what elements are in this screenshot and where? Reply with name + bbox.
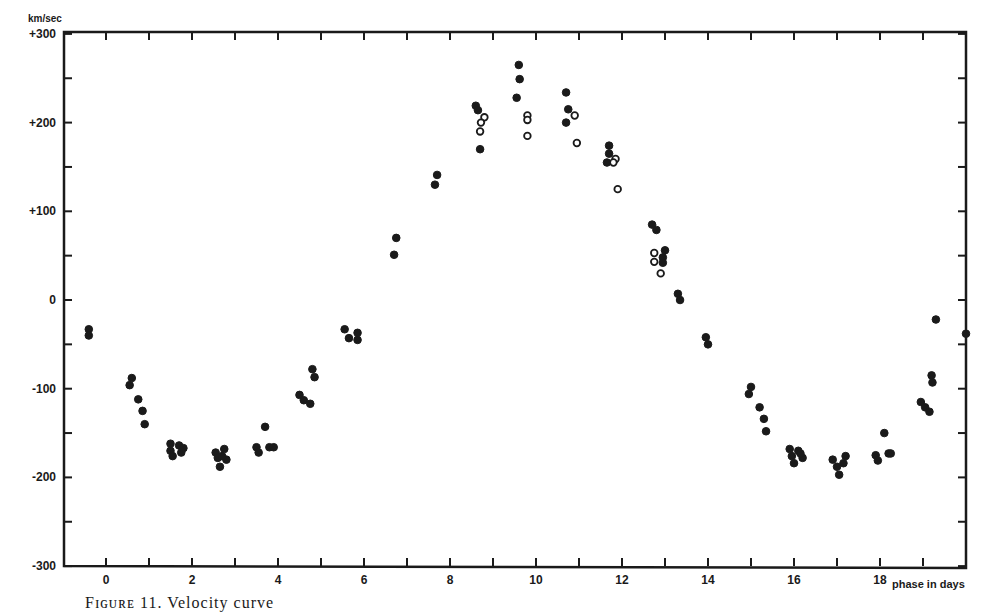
filled-data-point xyxy=(345,334,353,342)
x-tick-label: 8 xyxy=(447,573,454,587)
filled-data-point xyxy=(180,444,188,452)
y-tick-label: +300 xyxy=(29,27,56,41)
filled-data-point xyxy=(474,106,482,114)
filled-data-point xyxy=(745,390,753,398)
filled-data-point xyxy=(128,374,136,382)
open-data-point xyxy=(477,128,484,135)
filled-data-point xyxy=(756,404,764,412)
filled-data-point xyxy=(515,61,523,69)
filled-data-point xyxy=(311,373,319,381)
y-tick-label: -200 xyxy=(32,470,56,484)
filled-data-point xyxy=(513,94,521,102)
x-tick-label: 0 xyxy=(103,573,110,587)
filled-data-point xyxy=(653,226,661,234)
y-tick-label: +100 xyxy=(29,204,56,218)
filled-data-point xyxy=(562,89,570,97)
y-tick-label: -100 xyxy=(32,382,56,396)
filled-data-point xyxy=(392,234,400,242)
filled-data-point xyxy=(874,457,882,465)
filled-data-point xyxy=(169,452,177,460)
x-tick-label: 16 xyxy=(787,573,801,587)
y-axis-tick-labels: +300+200+1000-100-200-300 xyxy=(29,27,56,573)
filled-data-point xyxy=(790,459,798,467)
filled-data-point xyxy=(433,171,441,179)
x-axis-tick-labels: 024681012141618 xyxy=(103,573,887,587)
x-tick-label: 2 xyxy=(189,573,196,587)
y-tick-label: +200 xyxy=(29,116,56,130)
filled-data-point xyxy=(762,427,770,435)
filled-data-point xyxy=(702,333,710,341)
filled-data-point xyxy=(85,332,93,340)
filled-data-point xyxy=(929,379,937,387)
filled-data-point xyxy=(126,381,134,389)
filled-data-point xyxy=(306,400,314,408)
filled-data-point xyxy=(139,407,147,415)
open-data-point xyxy=(651,250,658,257)
x-tick-label: 10 xyxy=(529,573,543,587)
filled-data-point xyxy=(354,336,362,344)
filled-data-point xyxy=(167,440,175,448)
filled-data-point xyxy=(218,452,226,460)
filled-data-point xyxy=(605,150,613,158)
filled-data-point xyxy=(928,372,936,380)
filled-data-point xyxy=(829,456,837,464)
filled-data-point xyxy=(842,452,850,460)
filled-data-point xyxy=(390,251,398,259)
filled-data-point xyxy=(216,463,224,471)
y-tick-label: 0 xyxy=(49,293,56,307)
filled-data-point xyxy=(309,365,317,373)
filled-data-point xyxy=(887,450,895,458)
x-tick-label: 14 xyxy=(701,573,715,587)
y-tick-label: -300 xyxy=(32,559,56,573)
y-axis-unit-label: km/sec xyxy=(28,13,62,24)
x-tick-label: 12 xyxy=(615,573,629,587)
filled-data-point xyxy=(261,423,269,431)
plot-border xyxy=(64,32,966,568)
filled-data-point xyxy=(676,296,684,304)
open-data-point xyxy=(651,259,658,266)
data-points xyxy=(85,61,970,478)
filled-data-point xyxy=(659,259,667,267)
x-tick-label: 6 xyxy=(361,573,368,587)
filled-data-point xyxy=(760,415,768,423)
filled-data-point xyxy=(255,449,263,457)
filled-data-point xyxy=(747,383,755,391)
filled-data-point xyxy=(516,75,524,83)
y-axis-ticks xyxy=(64,34,966,566)
open-data-point xyxy=(610,159,617,166)
filled-data-point xyxy=(661,247,669,255)
open-data-point xyxy=(657,270,664,277)
filled-data-point xyxy=(786,445,794,453)
filled-data-point xyxy=(270,443,278,451)
filled-data-point xyxy=(704,341,712,349)
x-axis-title: phase in days xyxy=(892,578,965,590)
filled-data-point xyxy=(354,329,362,337)
filled-data-point xyxy=(932,316,940,324)
open-data-point xyxy=(478,119,485,126)
filled-data-point xyxy=(476,145,484,153)
figure-caption: Fɪɢᴜʀᴇ 11. Velocity curve xyxy=(85,594,274,612)
filled-data-point xyxy=(341,325,349,333)
plot-frame xyxy=(64,32,966,568)
filled-data-point xyxy=(881,429,889,437)
x-tick-label: 18 xyxy=(873,573,887,587)
filled-data-point xyxy=(788,452,796,460)
filled-data-point xyxy=(605,142,613,150)
filled-data-point xyxy=(562,119,570,127)
filled-data-point xyxy=(141,420,149,428)
filled-data-point xyxy=(962,330,970,338)
filled-data-point xyxy=(835,471,843,479)
filled-data-point xyxy=(926,408,934,416)
filled-data-point xyxy=(564,105,572,113)
filled-data-point xyxy=(220,445,228,453)
open-data-point xyxy=(571,112,578,119)
filled-data-point xyxy=(134,396,142,404)
x-axis-ticks xyxy=(106,32,923,566)
open-data-point xyxy=(614,186,621,193)
open-data-point xyxy=(524,117,531,124)
filled-data-point xyxy=(797,450,805,458)
open-data-point xyxy=(524,133,531,140)
filled-data-point xyxy=(840,459,848,467)
x-tick-label: 4 xyxy=(275,573,282,587)
